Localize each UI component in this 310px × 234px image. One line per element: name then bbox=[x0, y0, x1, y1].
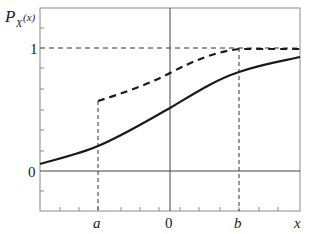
cdf-chart: P X (x) 1 0 a 0 b x bbox=[0, 0, 310, 234]
x-axis-label: x bbox=[293, 215, 301, 231]
y-axis-label-arg: (x) bbox=[23, 11, 36, 24]
x-tick-label-a: a bbox=[93, 215, 101, 231]
y-axis-ticks bbox=[40, 28, 44, 191]
y-tick-label-zero: 0 bbox=[28, 164, 36, 180]
y-axis-label-sub: X bbox=[15, 18, 23, 29]
x-tick-label-zero: 0 bbox=[165, 215, 173, 231]
x-axis-ticks bbox=[60, 207, 278, 211]
x-tick-label-b: b bbox=[234, 215, 242, 231]
y-tick-label-one: 1 bbox=[30, 41, 38, 57]
dashed-cdf-curve bbox=[98, 49, 300, 101]
y-axis-label-p: P bbox=[4, 7, 15, 26]
